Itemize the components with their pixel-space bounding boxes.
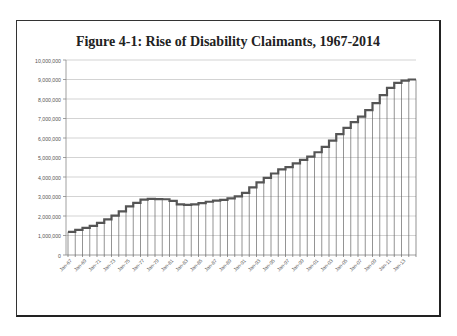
- x-tick-label: Jan-03: [319, 257, 334, 272]
- x-tick-label: Jan-99: [290, 257, 305, 272]
- x-tick-label: Jan-81: [159, 257, 174, 272]
- x-tick-label: Jan-09: [362, 257, 377, 272]
- x-tick-label: Jan-83: [174, 257, 189, 272]
- y-tick-label: 9,000,000: [38, 77, 61, 83]
- chart-plot: 01,000,0002,000,0003,000,0004,000,0005,0…: [0, 0, 457, 336]
- y-tick-label: 1,000,000: [38, 233, 61, 239]
- x-tick-label: Jan-05: [333, 257, 348, 272]
- y-tick-label: 6,000,000: [38, 136, 61, 142]
- x-tick-label: Jan-11: [377, 257, 392, 272]
- x-tick-label: Jan-75: [116, 257, 131, 272]
- y-tick-label: 8,000,000: [38, 97, 61, 103]
- x-tick-label: Jan-07: [348, 257, 363, 272]
- y-tick-label: 3,000,000: [38, 194, 61, 200]
- y-tick-label: 7,000,000: [38, 116, 61, 122]
- x-tick-label: Jan-93: [246, 257, 261, 272]
- x-tick-label: Jan-69: [72, 257, 87, 272]
- x-tick-label: Jan-01: [304, 257, 319, 272]
- x-tick-label: Jan-95: [261, 257, 276, 272]
- y-tick-label: 0: [58, 253, 61, 259]
- x-tick-label: Jan-89: [217, 257, 232, 272]
- y-tick-label: 4,000,000: [38, 175, 61, 181]
- x-tick-label: Jan-13: [391, 257, 406, 272]
- x-tick-label: Jan-77: [130, 257, 145, 272]
- y-tick-label: 10,000,000: [35, 58, 61, 64]
- x-tick-label: Jan-67: [58, 257, 73, 272]
- y-tick-label: 2,000,000: [38, 214, 61, 220]
- x-tick-label: Jan-85: [188, 257, 203, 272]
- y-tick-label: 5,000,000: [38, 155, 61, 161]
- x-tick-label: Jan-97: [275, 257, 290, 272]
- x-tick-label: Jan-79: [145, 257, 160, 272]
- x-tick-label: Jan-87: [203, 257, 218, 272]
- x-tick-label: Jan-73: [101, 257, 116, 272]
- x-tick-label: Jan-71: [87, 257, 102, 272]
- x-tick-label: Jan-91: [232, 257, 247, 272]
